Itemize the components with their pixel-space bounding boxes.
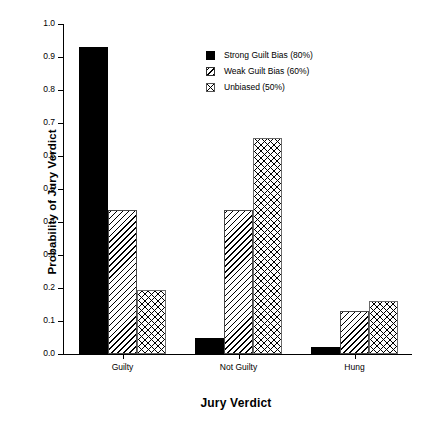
x-axis-tick-label: Guilty xyxy=(112,362,134,372)
y-axis-tick-label: 0.3 xyxy=(43,249,55,260)
legend-swatch-icon xyxy=(206,83,215,92)
y-axis-tick: 0.4 xyxy=(58,222,63,223)
chart-legend: Strong Guilt Bias (80%)Weak Guilt Bias (… xyxy=(206,47,313,95)
y-axis-tick: 0.3 xyxy=(58,255,63,256)
y-axis-tick-label: 1.0 xyxy=(43,18,55,29)
y-axis-tick: 0.7 xyxy=(58,123,63,124)
bar xyxy=(253,138,282,354)
x-axis-title: Jury Verdict xyxy=(60,396,412,410)
y-axis-title: Probability of Jury Verdict xyxy=(46,72,58,332)
legend-item-label: Strong Guilt Bias (80%) xyxy=(224,50,313,61)
y-axis-tick-label: 0.8 xyxy=(43,84,55,95)
y-axis-line xyxy=(63,24,64,355)
y-axis-tick: 1.0 xyxy=(58,24,63,25)
bar xyxy=(340,311,369,354)
bar xyxy=(195,338,224,355)
legend-item: Strong Guilt Bias (80%) xyxy=(206,47,313,63)
y-axis-tick: 0.6 xyxy=(58,156,63,157)
y-axis-tick: 0.9 xyxy=(58,57,63,58)
x-axis-tick xyxy=(123,355,124,359)
y-axis-tick: 0.2 xyxy=(58,288,63,289)
jury-verdict-bar-chart: Probability of Jury Verdict 0.00.10.20.3… xyxy=(0,0,438,428)
bar xyxy=(369,301,398,354)
x-axis-tick-label: Not Guilty xyxy=(220,362,257,372)
y-axis-tick: 0.8 xyxy=(58,90,63,91)
bar xyxy=(137,290,166,354)
legend-item: Weak Guilt Bias (60%) xyxy=(206,63,313,79)
y-axis-tick: 0.1 xyxy=(58,321,63,322)
legend-item-label: Unbiased (50%) xyxy=(224,82,285,93)
y-axis-tick: 0.0 xyxy=(58,354,63,355)
x-axis-line xyxy=(63,354,412,355)
y-axis-tick-label: 0.4 xyxy=(43,216,55,227)
x-axis-tick xyxy=(239,355,240,359)
legend-swatch-icon xyxy=(206,51,215,60)
y-axis-tick-label: 0.5 xyxy=(43,183,55,194)
bar xyxy=(311,347,340,354)
bar xyxy=(108,210,137,354)
y-axis-tick-label: 0.1 xyxy=(43,315,55,326)
y-axis-tick-label: 0.0 xyxy=(43,348,55,359)
y-axis-tick-label: 0.2 xyxy=(43,282,55,293)
legend-item: Unbiased (50%) xyxy=(206,79,313,95)
y-axis-tick-label: 0.9 xyxy=(43,51,55,62)
bar xyxy=(224,210,253,354)
y-axis-tick-label: 0.7 xyxy=(43,117,55,128)
x-axis-tick-label: Hung xyxy=(344,362,364,372)
y-axis-tick-label: 0.6 xyxy=(43,150,55,161)
bar xyxy=(79,47,108,354)
legend-item-label: Weak Guilt Bias (60%) xyxy=(224,66,309,77)
x-axis-tick xyxy=(355,355,356,359)
y-axis-tick: 0.5 xyxy=(58,189,63,190)
legend-swatch-icon xyxy=(206,67,215,76)
